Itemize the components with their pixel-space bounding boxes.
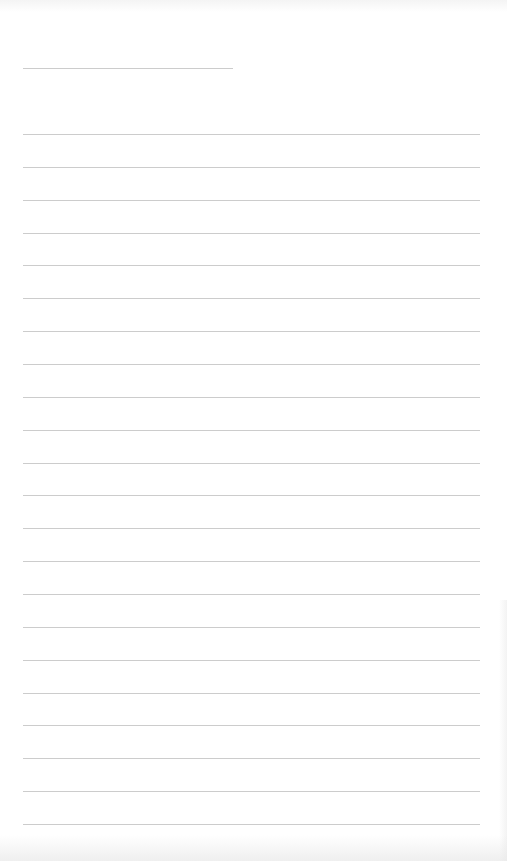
ruled-line [23, 463, 480, 464]
ruled-line [23, 430, 480, 431]
ruled-line [23, 167, 480, 168]
ruled-line [23, 660, 480, 661]
ruled-line [23, 495, 480, 496]
right-edge-shadow [499, 600, 507, 861]
ruled-line [23, 824, 480, 825]
ruled-line [23, 693, 480, 694]
ruled-line [23, 298, 480, 299]
ruled-line [23, 594, 480, 595]
bottom-edge-shadow [0, 835, 507, 861]
ruled-line [23, 331, 480, 332]
ruled-line [23, 627, 480, 628]
ruled-line [23, 725, 480, 726]
ruled-line [23, 758, 480, 759]
ruled-line [23, 561, 480, 562]
ruled-line [23, 791, 480, 792]
lined-paper-page [0, 0, 507, 861]
title-line [23, 68, 233, 69]
ruled-line [23, 134, 480, 135]
top-edge-shadow [0, 0, 507, 12]
ruled-line [23, 265, 480, 266]
ruled-line [23, 200, 480, 201]
ruled-line [23, 233, 480, 234]
ruled-line [23, 397, 480, 398]
ruled-line [23, 528, 480, 529]
ruled-line [23, 364, 480, 365]
